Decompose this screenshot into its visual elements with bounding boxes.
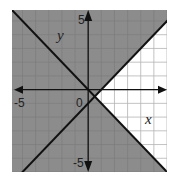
- origin-label: 0: [76, 96, 83, 110]
- x-tick-label-neg5: -5: [14, 96, 25, 110]
- x-axis-label: x: [144, 111, 152, 127]
- y-tick-label-5: 5: [78, 13, 85, 27]
- y-axis-label: y: [55, 27, 64, 43]
- y-tick-label-neg5: -5: [73, 156, 84, 170]
- coordinate-plane: -5 0 5 -5 y x: [0, 0, 176, 181]
